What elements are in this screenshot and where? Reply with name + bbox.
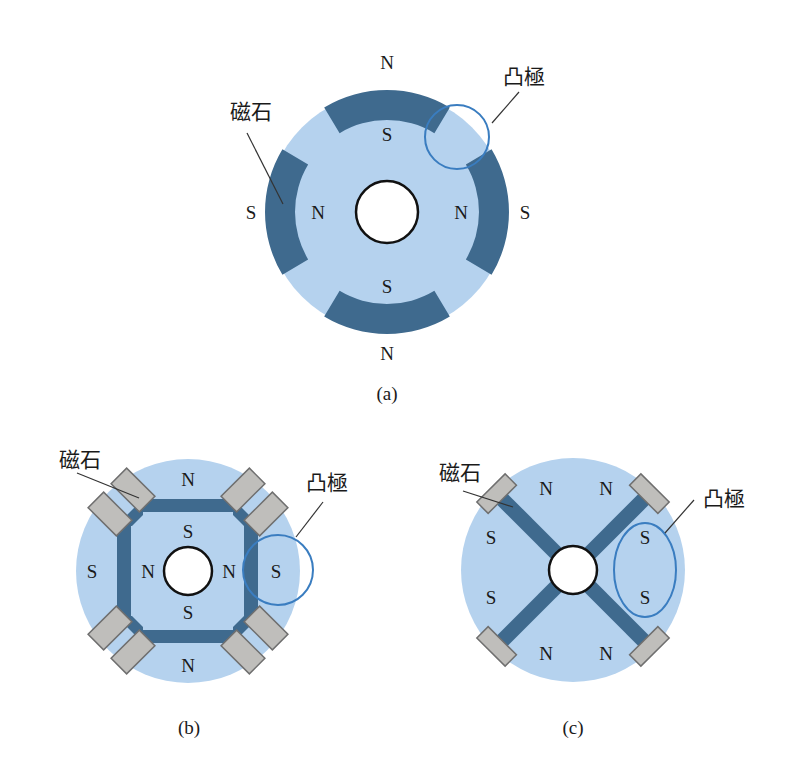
salient-pole-callout-label: 凸極 xyxy=(503,65,545,89)
salient-pole-callout-label: 凸極 xyxy=(703,487,745,511)
pole-label-n: N xyxy=(222,561,236,582)
figure-caption: (a) xyxy=(376,383,397,405)
bar-magnet xyxy=(117,526,131,618)
pole-label-s: S xyxy=(520,202,531,223)
pole-label-n: N xyxy=(181,469,195,490)
pole-label-s: S xyxy=(87,561,98,582)
shaft-hole xyxy=(164,547,212,595)
pole-label-s: S xyxy=(640,527,651,548)
figure-caption: (b) xyxy=(178,717,200,739)
rotor-diagram-stage: NSSNNSSN磁石凸極(a) NSSNNSSN磁石凸極(b) NNSSSSNN… xyxy=(0,0,790,781)
pole-label-n: N xyxy=(539,643,553,664)
pole-label-s: S xyxy=(486,527,497,548)
pole-label-n: N xyxy=(454,202,468,223)
pole-label-n: N xyxy=(311,202,325,223)
pole-label-s: S xyxy=(183,521,194,542)
pole-label-n: N xyxy=(380,52,394,73)
pole-label-s: S xyxy=(486,587,497,608)
pole-label-n: N xyxy=(539,478,553,499)
pole-label-s: S xyxy=(183,602,194,623)
salient-pole-callout-label: 凸極 xyxy=(306,471,348,495)
shaft-hole xyxy=(549,546,597,594)
leader-line xyxy=(296,502,323,537)
magnet-callout-label: 磁石 xyxy=(230,100,272,124)
bar-magnet xyxy=(244,526,258,618)
pole-label-s: S xyxy=(382,124,393,145)
pole-label-n: N xyxy=(141,561,155,582)
pole-label-n: N xyxy=(599,478,613,499)
bar-magnet xyxy=(143,499,234,512)
pole-label-n: N xyxy=(599,643,613,664)
pole-label-n: N xyxy=(181,655,195,676)
shaft-hole xyxy=(356,181,418,243)
figure-c-x-spoke-magnet-rotor: NNSSSSNN磁石凸極(c) xyxy=(439,458,745,739)
magnet-callout-label: 磁石 xyxy=(439,461,481,485)
magnet-callout-label: 磁石 xyxy=(59,448,101,472)
rotor-diagrams: NSSNNSSN磁石凸極(a) NSSNNSSN磁石凸極(b) NNSSSSNN… xyxy=(0,0,790,781)
bar-magnet xyxy=(143,630,234,643)
pole-label-n: N xyxy=(380,343,394,364)
pole-label-s: S xyxy=(640,587,651,608)
figure-a-surface-magnet-rotor: NSSNNSSN磁石凸極(a) xyxy=(230,52,545,405)
pole-label-s: S xyxy=(382,276,393,297)
figure-caption: (c) xyxy=(562,717,583,739)
figure-b-square-magnet-rotor: NSSNNSSN磁石凸極(b) xyxy=(59,448,348,739)
pole-label-s: S xyxy=(271,561,282,582)
leader-line xyxy=(492,92,519,123)
pole-label-s: S xyxy=(246,202,257,223)
